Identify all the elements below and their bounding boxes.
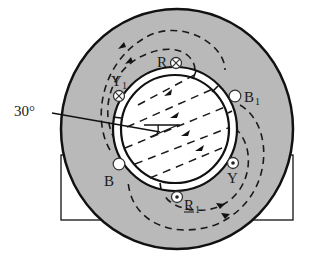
dot-icon xyxy=(175,195,179,199)
svg-text:Y: Y xyxy=(111,73,122,89)
svg-text:Y: Y xyxy=(227,170,238,186)
angle-label: 30° xyxy=(14,103,35,119)
empty-slot-icon xyxy=(229,90,241,102)
svg-text:1: 1 xyxy=(255,96,260,107)
svg-text:B: B xyxy=(244,89,254,105)
svg-text:1: 1 xyxy=(195,204,200,215)
svg-text:R: R xyxy=(157,54,167,70)
empty-slot-icon xyxy=(113,158,125,170)
conductor-Y: Y xyxy=(227,158,239,187)
svg-text:B: B xyxy=(104,173,114,189)
rotating-field-diagram: 30° R Y 1 B 1 B Y R 1 xyxy=(0,0,312,269)
dot-icon xyxy=(231,161,235,165)
svg-text:1: 1 xyxy=(122,80,127,91)
svg-text:R: R xyxy=(184,197,194,213)
